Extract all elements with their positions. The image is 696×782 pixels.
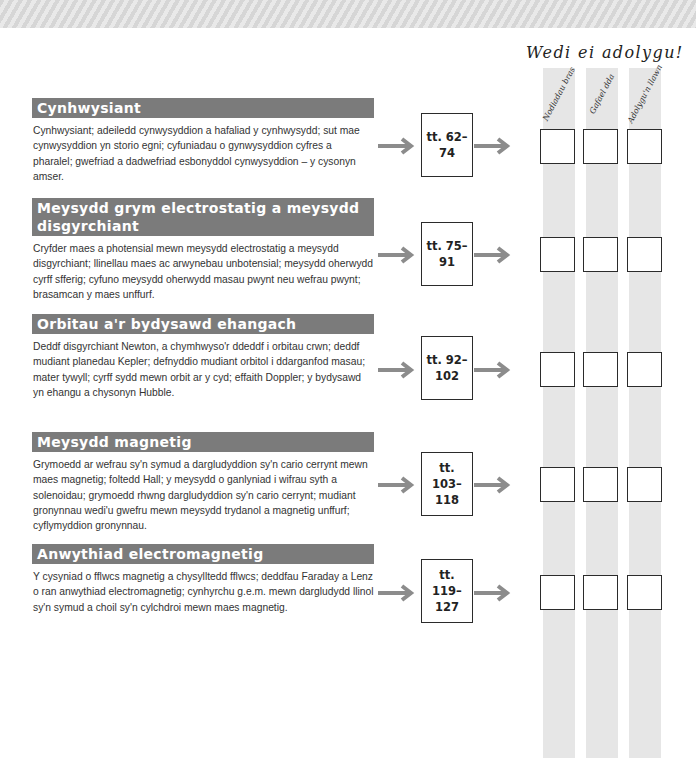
- checkbox-good-grasp[interactable]: [583, 575, 618, 610]
- section-title: Orbitau a'r bydysawd ehangach: [32, 314, 374, 334]
- page-range-end: 118: [425, 492, 469, 508]
- page-range-start: tt. 62–: [426, 129, 467, 145]
- column-stripe-good-grasp: [586, 68, 618, 758]
- section-title: Anwythiad electromagnetig: [32, 544, 374, 564]
- checkbox-rough-notes[interactable]: [540, 237, 575, 272]
- topic-section-magnetic-fields: Meysydd magnetig Grymoedd ar wefrau sy'n…: [32, 432, 374, 533]
- arrow-right-icon: [378, 137, 418, 155]
- page-reference-box: tt. 75–91: [421, 222, 473, 286]
- revised-checklist-title: Wedi ei adolygu!: [526, 43, 696, 62]
- checkbox-good-grasp[interactable]: [583, 352, 618, 387]
- topic-section-electromagnetic-induction: Anwythiad electromagnetig Y cysyniad o f…: [32, 544, 374, 615]
- page-reference-box: tt. 103–118: [421, 452, 473, 516]
- section-description: Grymoedd ar wefrau sy'n symud a dargludy…: [32, 452, 374, 533]
- arrow-right-icon: [378, 476, 418, 494]
- column-label: Nodiadau bras: [541, 66, 577, 123]
- decorative-striped-band: [0, 0, 696, 28]
- section-title: Meysydd grym electrostatig a meysydd dis…: [32, 198, 374, 236]
- arrow-right-icon: [474, 584, 514, 602]
- page-range-end: 102: [426, 368, 467, 384]
- checkbox-full-revision[interactable]: [627, 237, 662, 272]
- checkbox-good-grasp[interactable]: [583, 237, 618, 272]
- page-range-end: 91: [426, 254, 467, 270]
- checkbox-good-grasp[interactable]: [583, 129, 618, 164]
- section-description: Y cysyniad o fflwcs magnetig a chysyllte…: [32, 564, 374, 615]
- column-header-rough-notes: Nodiadau bras: [543, 68, 575, 120]
- section-description: Cynhwysiant; adeiledd cynwysyddion a haf…: [32, 118, 374, 184]
- arrow-right-icon: [378, 246, 418, 264]
- section-title: Cynhwysiant: [32, 98, 374, 118]
- column-label: Adolygu'n llawn: [626, 63, 664, 124]
- page-reference-box: tt. 92–102: [421, 336, 473, 400]
- section-description: Cryfder maes a photensial mewn meysydd e…: [32, 236, 374, 302]
- page-range-start: tt. 103–: [425, 460, 469, 492]
- page-range-end: 127: [425, 599, 469, 615]
- checkbox-rough-notes[interactable]: [540, 467, 575, 502]
- page-range-start: tt. 119–: [425, 567, 469, 599]
- column-header-full-revision: Adolygu'n llawn: [629, 68, 661, 120]
- checkbox-full-revision[interactable]: [627, 575, 662, 610]
- arrow-right-icon: [474, 361, 514, 379]
- column-stripe-full-revision: [629, 68, 661, 758]
- section-description: Deddf disgyrchiant Newton, a chymhwyso'r…: [32, 334, 374, 400]
- checkbox-full-revision[interactable]: [627, 467, 662, 502]
- checkbox-rough-notes[interactable]: [540, 575, 575, 610]
- column-stripe-rough-notes: [543, 68, 575, 758]
- arrow-right-icon: [474, 476, 514, 494]
- checkbox-full-revision[interactable]: [627, 129, 662, 164]
- arrow-right-icon: [474, 246, 514, 264]
- arrow-right-icon: [378, 584, 418, 602]
- page-range-end: 74: [426, 145, 467, 161]
- topic-section-capacitance: Cynhwysiant Cynhwysiant; adeiledd cynwys…: [32, 98, 374, 184]
- checkbox-good-grasp[interactable]: [583, 467, 618, 502]
- topic-section-orbits-universe: Orbitau a'r bydysawd ehangach Deddf disg…: [32, 314, 374, 400]
- checkbox-rough-notes[interactable]: [540, 352, 575, 387]
- arrow-right-icon: [474, 137, 514, 155]
- checkbox-rough-notes[interactable]: [540, 129, 575, 164]
- checkbox-full-revision[interactable]: [627, 352, 662, 387]
- page-range-start: tt. 75–: [426, 238, 467, 254]
- topic-section-electrostatic-gravitational-fields: Meysydd grym electrostatig a meysydd dis…: [32, 198, 374, 302]
- page-reference-box: tt. 62–74: [421, 113, 473, 177]
- page-range-start: tt. 92–: [426, 352, 467, 368]
- arrow-right-icon: [378, 361, 418, 379]
- page-reference-box: tt. 119–127: [421, 559, 473, 623]
- column-header-good-grasp: Gafael dda: [586, 68, 618, 120]
- section-title: Meysydd magnetig: [32, 432, 374, 452]
- column-label: Gafael dda: [588, 73, 616, 116]
